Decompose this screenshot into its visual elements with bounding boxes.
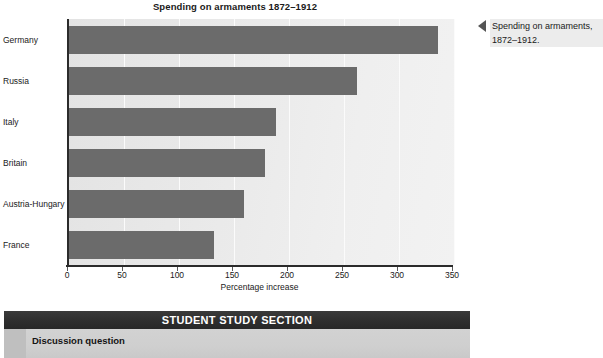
figure-caption-text: Spending on armaments, 1872–1912. [490,19,603,47]
x-axis-tick-label: 300 [390,270,404,280]
chart-bars [69,19,454,265]
x-axis-tick-label: 50 [117,270,126,280]
student-study-section-header: STUDENT STUDY SECTION [4,311,470,329]
y-axis-label-austria-hungary: Austria-Hungary [3,199,64,209]
y-axis-label-germany: Germany [3,35,38,45]
chart-title: Spending on armaments 1872–1912 [0,1,470,12]
bar-britain [69,149,265,177]
x-axis-tick-label: 250 [335,270,349,280]
bar-germany [69,26,438,54]
x-axis-tick-label: 200 [280,270,294,280]
bar-russia [69,67,357,95]
chart-plot-area [67,19,454,265]
student-study-section: STUDENT STUDY SECTION Discussion questio… [0,311,603,358]
x-axis-tick-label: 0 [65,270,70,280]
y-axis-label-france: France [3,240,29,250]
x-axis-line [66,265,453,267]
y-axis-label-britain: Britain [3,158,27,168]
y-axis-label-italy: Italy [3,117,19,127]
study-section-left-strip [4,329,26,358]
y-axis-label-russia: Russia [3,76,29,86]
gridline [454,19,455,265]
discussion-question-heading: Discussion question [32,335,125,346]
x-axis-tick-label: 150 [225,270,239,280]
bar-austria-hungary [69,190,244,218]
figure-armaments-spending: Spending on armaments 1872–1912 05010015… [0,0,470,300]
bar-france [69,231,214,259]
x-axis-tick-label: 350 [445,270,459,280]
x-axis-title: Percentage increase [67,282,452,292]
student-study-section-body: Discussion question [4,329,470,358]
figure-caption: Spending on armaments, 1872–1912. [478,19,603,47]
x-axis-tick-label: 100 [170,270,184,280]
bar-italy [69,108,276,136]
left-triangle-icon [478,20,486,32]
